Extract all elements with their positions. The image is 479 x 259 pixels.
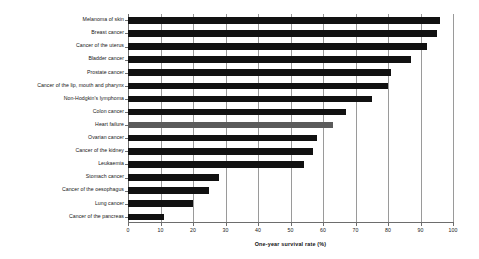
y-axis-tick	[125, 138, 128, 139]
bar	[128, 83, 388, 90]
bar-row: Melanoma of skin	[0, 14, 479, 27]
category-label: Ovarian cancer	[0, 134, 124, 140]
category-label: Cancer of the uterus	[0, 42, 124, 48]
category-label: Cancer of the lip, mouth and pharynx	[0, 82, 124, 88]
category-label: Cancer of the pancreas	[0, 213, 124, 219]
bar	[128, 30, 437, 37]
bar-row: Heart failure	[0, 119, 479, 132]
category-label: Bladder cancer	[0, 55, 124, 61]
bar	[128, 174, 219, 181]
bar-row: Bladder cancer	[0, 53, 479, 66]
y-axis-tick	[125, 191, 128, 192]
y-axis-tick	[125, 125, 128, 126]
bar	[128, 43, 427, 50]
category-label: Cancer of the kidney	[0, 147, 124, 153]
y-axis-tick	[125, 47, 128, 48]
bar-row: Breast cancer	[0, 27, 479, 40]
y-axis-tick	[125, 86, 128, 87]
bar-row: Cancer of the oesophagus	[0, 184, 479, 197]
category-label: Prostate cancer	[0, 69, 124, 75]
category-label: Lung cancer	[0, 200, 124, 206]
bar-row: Non-Hodgkin's lymphoma	[0, 93, 479, 106]
bar	[128, 187, 209, 194]
x-axis-tick-label: 40	[255, 227, 261, 233]
y-axis-tick	[125, 112, 128, 113]
y-axis-tick	[125, 73, 128, 74]
y-axis-tick	[125, 217, 128, 218]
category-label: Stomach cancer	[0, 173, 124, 179]
bar	[128, 109, 346, 116]
bar	[128, 135, 317, 142]
x-axis-tick-label: 10	[158, 227, 164, 233]
x-axis-tick-label: 60	[320, 227, 326, 233]
bar	[128, 161, 304, 168]
bar-row: Cancer of the uterus	[0, 40, 479, 53]
bar	[128, 69, 391, 76]
bar-row: Ovarian cancer	[0, 132, 479, 145]
bar-row: Stomach cancer	[0, 171, 479, 184]
x-axis-tick-label: 50	[288, 227, 294, 233]
x-axis-tick-label: 100	[449, 227, 458, 233]
y-axis-tick	[125, 151, 128, 152]
category-label: Breast cancer	[0, 29, 124, 35]
bar-row: Lung cancer	[0, 197, 479, 210]
x-axis-tick-label: 80	[385, 227, 391, 233]
x-axis-tick-label: 0	[127, 227, 130, 233]
x-axis-tick-label: 70	[353, 227, 359, 233]
x-axis-tick-label: 30	[223, 227, 229, 233]
bar	[128, 96, 372, 103]
y-axis-tick	[125, 33, 128, 34]
category-label: Leukaemia	[0, 160, 124, 166]
bar-row: Cancer of the lip, mouth and pharynx	[0, 80, 479, 93]
bar	[128, 214, 164, 221]
y-axis-tick	[125, 99, 128, 100]
x-axis-tick-label: 20	[190, 227, 196, 233]
bar-row: Cancer of the kidney	[0, 145, 479, 158]
bar-row: Cancer of the pancreas	[0, 211, 479, 224]
y-axis-tick	[125, 204, 128, 205]
category-label: Melanoma of skin	[0, 16, 124, 22]
category-label: Cancer of the oesophagus	[0, 186, 124, 192]
bar-row: Leukaemia	[0, 158, 479, 171]
y-axis-tick	[125, 178, 128, 179]
bar	[128, 17, 440, 24]
bar-row: Prostate cancer	[0, 66, 479, 79]
category-label: Colon cancer	[0, 108, 124, 114]
category-label: Heart failure	[0, 121, 124, 127]
x-axis-title: One-year survival rate (%)	[128, 241, 453, 247]
bar	[128, 56, 411, 63]
category-label: Non-Hodgkin's lymphoma	[0, 95, 124, 101]
y-axis-tick	[125, 20, 128, 21]
bar	[128, 200, 193, 207]
y-axis-tick	[125, 60, 128, 61]
bar	[128, 148, 313, 155]
y-axis-tick	[125, 164, 128, 165]
x-axis-tick-label: 90	[418, 227, 424, 233]
bar-chart: 0102030405060708090100 Melanoma of skinB…	[0, 0, 479, 259]
bar	[128, 122, 333, 129]
bar-row: Colon cancer	[0, 106, 479, 119]
